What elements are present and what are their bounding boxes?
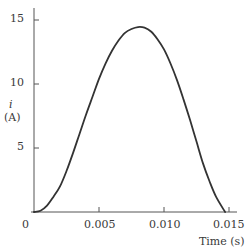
y-tick-label-10: 10 [10,77,24,88]
x-axis-label: Time (s) [199,236,245,247]
axis-ticks [34,20,229,212]
y-tick-label-5: 5 [17,141,24,152]
x-tick-label-0.010: 0.010 [149,219,181,230]
y-tick-label-15: 15 [10,13,24,24]
y-axis-unit: (A) [4,112,21,123]
y-axis-symbol: i [9,99,13,110]
plot-area [0,0,246,249]
x-tick-label-0.015: 0.015 [213,219,245,230]
x-tick-label-0.005: 0.005 [84,219,116,230]
current-curve [34,27,225,212]
x-tick-label-0: 0 [22,219,29,230]
